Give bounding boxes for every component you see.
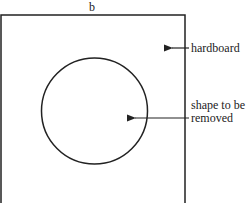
circle-cutout <box>42 58 148 164</box>
hardboard-label: hardboard <box>191 41 240 55</box>
hardboard-outline <box>1 15 185 203</box>
dimension-label-b: b <box>89 0 95 14</box>
cutout-label-line2: removed <box>191 111 233 125</box>
hardboard-diagram: b hardboard shape to be removed <box>0 0 252 203</box>
cutout-label-line1: shape to be <box>191 98 245 112</box>
